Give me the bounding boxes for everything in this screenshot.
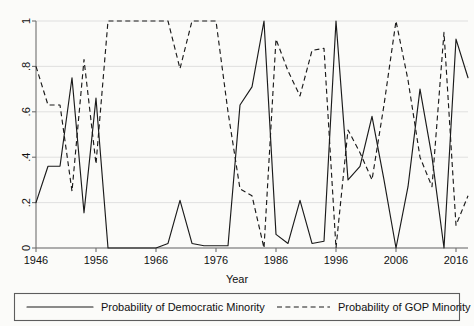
x-tick-label-4: 1986 [264, 254, 288, 266]
x-tick-label-3: 1976 [204, 254, 228, 266]
legend-label-democratic-minority: Probability of Democratic Minority [101, 301, 265, 313]
x-tick-label-7: 2016 [444, 254, 468, 266]
chart-legend: Probability of Democratic Minority Proba… [15, 294, 471, 321]
y-tick-label-0: 0 [20, 245, 32, 251]
x-tick-label-5: 1996 [324, 254, 348, 266]
data-series-group [36, 21, 468, 248]
y-tick-label-4: .8 [20, 62, 32, 71]
line-chart: 0.2.4.6.81 19461956196619761986199620062… [0, 0, 474, 326]
legend-label-gop-minority: Probability of GOP Minority [338, 301, 471, 313]
x-tick-label-6: 2006 [384, 254, 408, 266]
y-tick-labels-group: 0.2.4.6.81 [20, 18, 36, 251]
chart-figure: 0.2.4.6.81 19461956196619761986199620062… [0, 0, 474, 326]
x-tick-label-2: 1966 [144, 254, 168, 266]
y-tick-label-5: 1 [20, 18, 32, 24]
x-tick-labels-group: 19461956196619761986199620062016 [24, 248, 468, 266]
x-axis-title: Year [226, 273, 249, 285]
y-tick-label-3: .6 [20, 107, 32, 116]
x-tick-label-1: 1956 [84, 254, 108, 266]
series-line-democratic-minority [36, 21, 468, 248]
y-tick-label-1: .2 [20, 198, 32, 207]
y-tick-label-2: .4 [20, 153, 32, 162]
x-tick-label-0: 1946 [24, 254, 48, 266]
